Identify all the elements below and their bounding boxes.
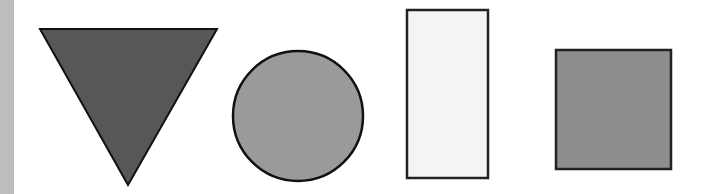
shapes-canvas	[0, 0, 704, 194]
circle-shape	[233, 51, 363, 181]
square-shape	[556, 50, 671, 169]
tall-rectangle-shape	[407, 10, 488, 178]
inverted-triangle-shape	[40, 29, 217, 185]
